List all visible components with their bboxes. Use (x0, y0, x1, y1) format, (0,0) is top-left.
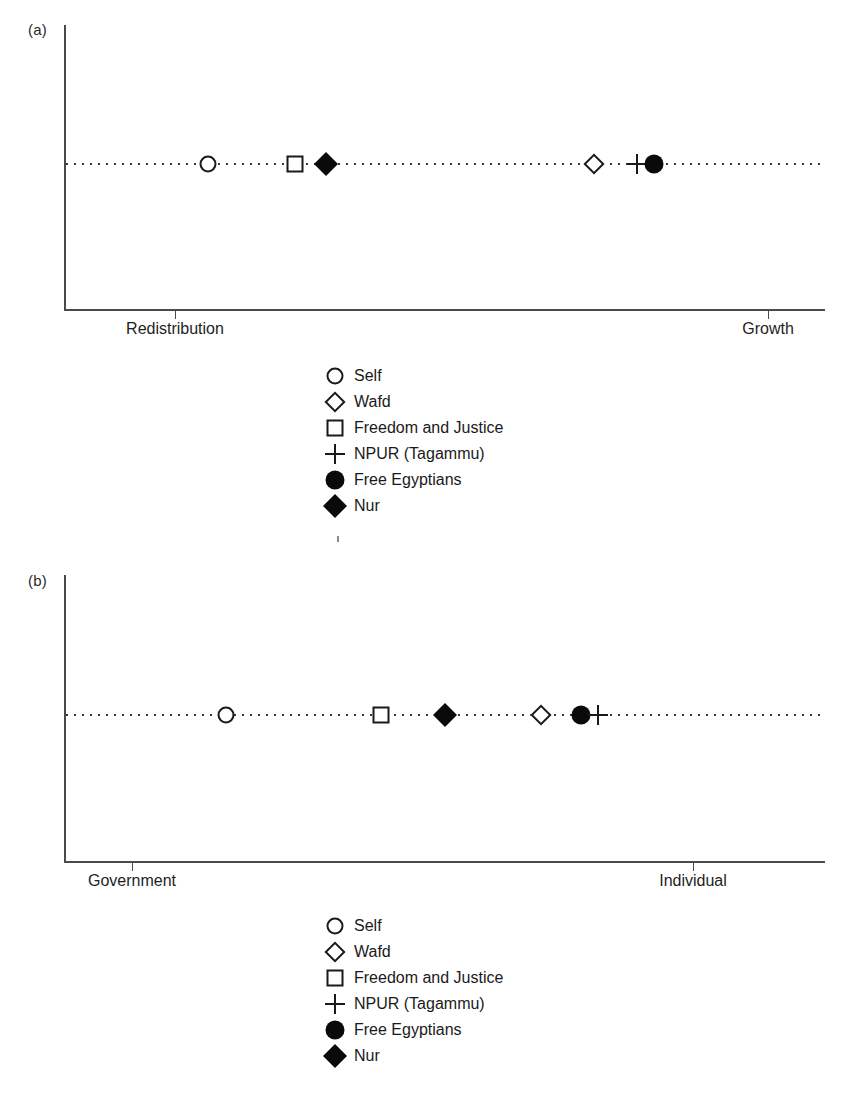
panel-b-tick-left (132, 863, 133, 871)
panel-b: (b) Government Individual Self (0, 550, 851, 1115)
panel-a-baseline-dotted (66, 163, 825, 165)
panel-b-tick-right (693, 863, 694, 871)
legend-item-label: Self (354, 367, 382, 385)
panel-a-axis-label-right: Growth (742, 320, 794, 338)
diamond-filled-icon (322, 493, 348, 519)
point-npur-tagammu[interactable] (588, 705, 608, 725)
panel-a: (a) Redistribution Growth Self (0, 0, 851, 550)
point-freedom-justice[interactable] (373, 707, 390, 724)
panel-a-x-axis (64, 309, 825, 311)
circle-open-icon (322, 363, 348, 389)
legend-item-label: Freedom and Justice (354, 969, 503, 987)
plus-icon (322, 441, 348, 467)
legend-item-label: Nur (354, 497, 380, 515)
diamond-open-icon (322, 389, 348, 415)
circle-filled-icon (322, 467, 348, 493)
legend-item-label: Free Egyptians (354, 1021, 462, 1039)
panel-b-axis-label-left: Government (88, 872, 176, 890)
plus-icon (322, 991, 348, 1017)
legend-item-label: NPUR (Tagammu) (354, 995, 485, 1013)
legend-item-label: Free Egyptians (354, 471, 462, 489)
legend-item-label: Wafd (354, 943, 391, 961)
diamond-open-icon (322, 939, 348, 965)
panel-b-axis-label-right: Individual (659, 872, 727, 890)
legend-item-label: NPUR (Tagammu) (354, 445, 485, 463)
point-nur[interactable] (433, 703, 457, 727)
panel-b-x-axis (64, 861, 825, 863)
point-nur[interactable] (314, 152, 338, 176)
panel-a-tick-right (768, 311, 769, 319)
point-wafd[interactable] (583, 153, 604, 174)
panel-b-y-axis (64, 575, 66, 862)
figure-root: (a) Redistribution Growth Self (0, 0, 851, 1115)
legend-item-label: Wafd (354, 393, 391, 411)
point-self[interactable] (200, 156, 217, 173)
panel-a-tick-left (175, 311, 176, 319)
point-free-egyptians[interactable] (645, 155, 664, 174)
point-freedom-justice[interactable] (287, 156, 304, 173)
panel-a-axis-label-left: Redistribution (126, 320, 224, 338)
panel-b-plot-area: Government Individual (0, 550, 851, 890)
panel-a-plot-area: Redistribution Growth (0, 0, 851, 330)
legend-item-label: Freedom and Justice (354, 419, 503, 437)
panel-a-y-axis (64, 25, 66, 311)
circle-filled-icon (322, 1017, 348, 1043)
point-self[interactable] (218, 707, 235, 724)
square-open-icon (322, 415, 348, 441)
circle-open-icon (322, 913, 348, 939)
square-open-icon (322, 965, 348, 991)
legend-item-label: Self (354, 917, 382, 935)
scan-artifact-dot (337, 536, 339, 542)
legend-item-label: Nur (354, 1047, 380, 1065)
diamond-filled-icon (322, 1043, 348, 1069)
point-wafd[interactable] (530, 704, 551, 725)
